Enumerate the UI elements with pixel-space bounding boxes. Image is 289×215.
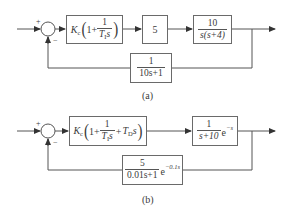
plant-delay: e−s [222,124,233,138]
pi-controller-block-a: Kc ( 1+ 1 TIs ) [66,15,123,44]
caption-b: (b) [142,194,154,205]
plant-transfer-function: 1 s+10 [197,120,221,142]
controller-gain: Kc [73,125,83,137]
summing-plus-sign-b: + [36,119,41,128]
summing-minus-sign-a: − [53,36,58,45]
controller-one: 1+ [86,24,97,35]
controller-gain: Kc [71,24,81,36]
caption-a: (a) [142,90,153,101]
integral-term: 1 TIs [100,120,115,143]
controller-one: 1+ [89,126,100,137]
feedback-delay: e−0.1s [160,163,180,177]
derivative-term: TDs [122,125,136,137]
gain-block-a: 5 [142,15,168,44]
feedback-block-a: 1 10s+1 [130,53,172,83]
gain-value: 5 [153,24,158,35]
pid-controller-block-b: Kc ( 1+ 1 TIs + TDs ) [69,116,147,146]
feedback-transfer-function: 5 0.01s+1 [125,159,159,181]
plant-block-a: 10 s(s+4) [193,15,232,44]
plant-transfer-function: 10 s(s+4) [198,19,227,41]
plant-block-b: 1 s+10 e−s [192,116,238,146]
feedback-transfer-function: 1 10s+1 [137,57,164,79]
summing-plus-sign-a: + [36,17,41,26]
integral-term: 1 TIs [97,18,112,41]
feedback-block-b: 5 0.01s+1 e−0.1s [122,155,183,185]
summing-minus-sign-b: − [53,138,58,147]
